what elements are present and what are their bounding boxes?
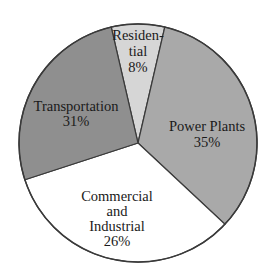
label-commercial-pct: 26%	[104, 233, 131, 249]
label-power-plants-line1: Power Plants	[169, 118, 245, 134]
label-commercial-line1: Commercial	[81, 188, 153, 204]
label-power-plants-pct: 35%	[194, 134, 221, 150]
label-residential-line1: Residen-	[112, 27, 164, 43]
label-commercial-line2: and	[107, 203, 129, 219]
pie-chart: Residen- tial 8% Power Plants 35% Commer…	[0, 0, 270, 275]
label-transportation-pct: 31%	[63, 113, 90, 129]
label-residential-pct: 8%	[128, 59, 147, 75]
label-residential-line2: tial	[129, 43, 148, 59]
label-commercial-line3: Industrial	[89, 218, 145, 234]
label-transportation-line1: Transportation	[34, 98, 120, 114]
